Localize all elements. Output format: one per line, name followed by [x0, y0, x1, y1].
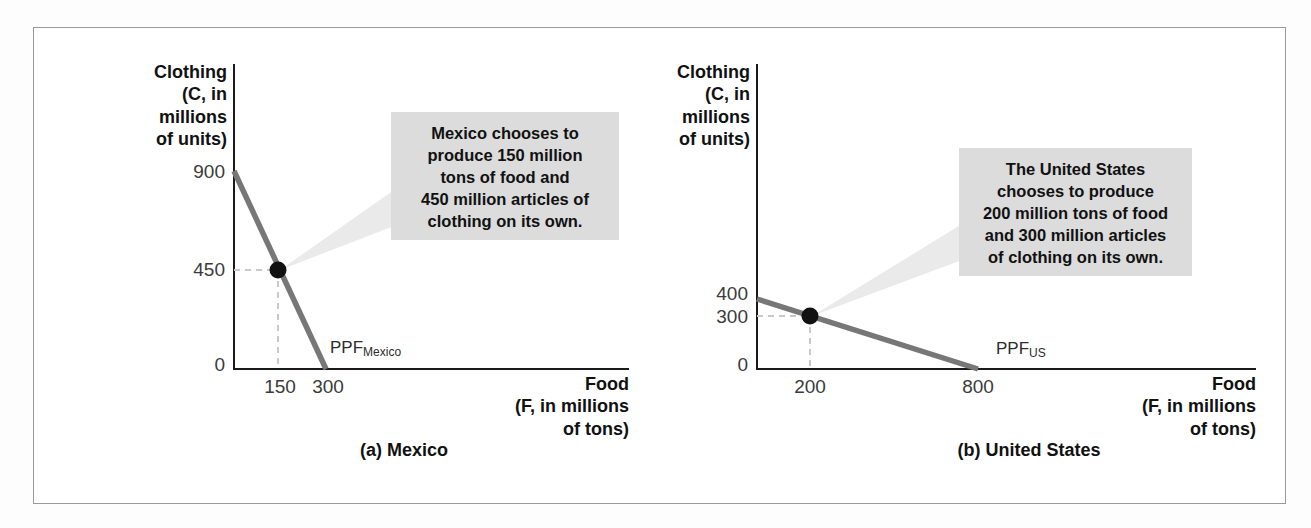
ppf-curve-label-mexico: PPFMexico: [330, 338, 401, 358]
ppf-curve-label-us: PPFUS: [996, 339, 1046, 359]
callout-us: The United States chooses to produce 200…: [959, 148, 1192, 276]
ppf-label-sub-mexico: Mexico: [363, 345, 401, 359]
ppf-plot-mexico: [34, 28, 654, 505]
chart-panel-us: Clothing (C, in millions of units) Food …: [634, 28, 1287, 503]
panel-caption-mexico: (a) Mexico: [319, 440, 489, 461]
panel-caption-us: (b) United States: [914, 440, 1144, 461]
ppf-label-sub-us: US: [1029, 346, 1046, 360]
callout-mexico: Mexico chooses to produce 150 million to…: [391, 112, 619, 240]
ppf-label-main-mexico: PPF: [330, 338, 363, 357]
figure-plate: Clothing (C, in millions of units) Food …: [33, 27, 1286, 504]
ppf-label-main-us: PPF: [996, 339, 1029, 358]
chart-panel-mexico: Clothing (C, in millions of units) Food …: [34, 28, 654, 503]
